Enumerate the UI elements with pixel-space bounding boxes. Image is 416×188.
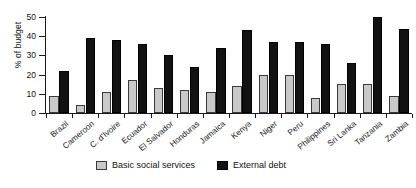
bar-basic-social-services: [49, 96, 58, 113]
bar-group: [334, 17, 360, 113]
y-tick-label-10: 10: [18, 90, 36, 99]
y-tick-label-20: 20: [18, 71, 36, 80]
x-tick-3: [124, 114, 125, 118]
bar-external-debt: [269, 42, 278, 113]
chart-legend: Basic social servicesExternal debt: [96, 160, 286, 170]
bar-group: [46, 17, 72, 113]
x-tick-6: [203, 114, 204, 118]
x-tick-10: [307, 114, 308, 118]
bar-basic-social-services: [102, 92, 111, 113]
bar-group: [177, 17, 203, 113]
x-tick-14: [412, 114, 413, 118]
bar-external-debt: [242, 30, 251, 113]
x-tick-8: [255, 114, 256, 118]
x-tick-13: [386, 114, 387, 118]
bar-basic-social-services: [128, 80, 137, 113]
x-axis-label-text: Niger: [259, 120, 279, 139]
bar-group: [281, 17, 307, 113]
bar-basic-social-services: [363, 84, 372, 113]
x-axis-label-text: Brazil: [49, 120, 70, 139]
bar-basic-social-services: [206, 92, 215, 113]
y-tick-30: [39, 55, 45, 56]
bar-basic-social-services: [154, 88, 163, 113]
y-tick-0: [39, 113, 45, 114]
bar-group: [151, 17, 177, 113]
plot-area: [46, 17, 412, 113]
bar-basic-social-services: [389, 96, 398, 113]
y-tick-20: [39, 75, 45, 76]
bar-external-debt: [295, 42, 304, 113]
bar-group: [229, 17, 255, 113]
x-tick-4: [151, 114, 152, 118]
bar-group: [255, 17, 281, 113]
bar-basic-social-services: [232, 86, 241, 113]
y-tick-40: [39, 36, 45, 37]
bar-external-debt: [399, 29, 408, 113]
y-tick-label-0: 0: [18, 109, 36, 118]
x-tick-5: [177, 114, 178, 118]
x-axis-label-text: Tanzania: [354, 120, 384, 147]
y-tick-10: [39, 94, 45, 95]
bar-basic-social-services: [285, 75, 294, 113]
bar-group: [98, 17, 124, 113]
bar-basic-social-services: [311, 98, 320, 113]
bar-external-debt: [190, 67, 199, 113]
bar-external-debt: [112, 40, 121, 113]
bar-group: [124, 17, 150, 113]
y-tick-label-50: 50: [18, 13, 36, 22]
bar-external-debt: [373, 17, 382, 113]
legend-entry[interactable]: Basic social services: [96, 160, 195, 170]
x-tick-1: [72, 114, 73, 118]
legend-swatch-social: [96, 161, 107, 170]
x-axis-label-text: Zambia: [384, 120, 410, 144]
bar-external-debt: [138, 44, 147, 113]
y-tick-50: [39, 17, 45, 18]
bar-group: [307, 17, 333, 113]
bar-basic-social-services: [180, 90, 189, 113]
x-axis-label-text: Kenya: [230, 120, 253, 141]
bar-group: [72, 17, 98, 113]
bar-chart: % of budget 01020304050 BrazilCameroonC.…: [0, 0, 416, 188]
bar-basic-social-services: [76, 105, 85, 113]
legend-label: External debt: [233, 160, 286, 170]
x-axis-label-text: Jamaica: [199, 120, 228, 146]
bar-external-debt: [86, 38, 95, 113]
x-tick-7: [229, 114, 230, 118]
x-tick-0: [46, 114, 47, 118]
bar-external-debt: [347, 63, 356, 113]
bar-group: [360, 17, 386, 113]
bar-external-debt: [59, 71, 68, 113]
bar-basic-social-services: [259, 75, 268, 113]
bar-basic-social-services: [337, 84, 346, 113]
x-tick-11: [334, 114, 335, 118]
x-tick-9: [281, 114, 282, 118]
legend-entry[interactable]: External debt: [217, 160, 286, 170]
x-tick-2: [98, 114, 99, 118]
bar-external-debt: [164, 55, 173, 113]
bar-group: [203, 17, 229, 113]
x-axis-label-text: Peru: [287, 120, 306, 137]
legend-swatch-debt: [217, 161, 228, 170]
bar-group: [386, 17, 412, 113]
bar-external-debt: [216, 48, 225, 113]
x-tick-12: [360, 114, 361, 118]
y-tick-label-30: 30: [18, 51, 36, 60]
y-tick-label-40: 40: [18, 32, 36, 41]
bar-external-debt: [321, 44, 330, 113]
legend-label: Basic social services: [112, 160, 195, 170]
